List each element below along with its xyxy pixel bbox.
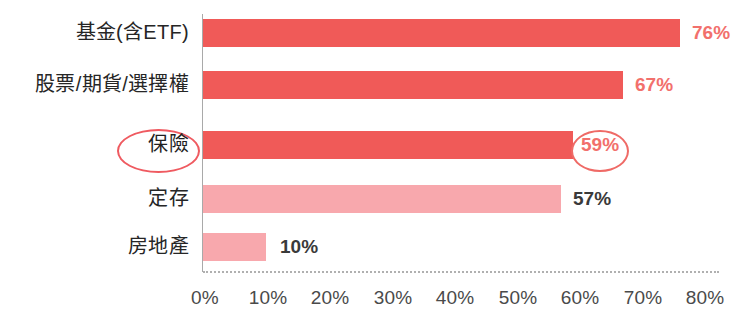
x-tick-70: 70%	[613, 286, 673, 310]
category-label-fund: 基金(含ETF)	[76, 19, 190, 45]
chart-row-real-estate: 房地產 10%	[0, 228, 741, 274]
category-label-real-estate: 房地產	[128, 233, 189, 259]
x-tick-40: 40%	[425, 286, 485, 310]
bar-real-estate	[203, 233, 266, 261]
horizontal-bar-chart: 基金(含ETF) 76% 股票/期貨/選擇權 67% 保險 59% 定存 57%…	[0, 0, 741, 329]
value-label-fund: 76%	[692, 20, 730, 46]
bar-time-deposit	[203, 185, 561, 213]
value-label-insurance: 59%	[581, 132, 619, 158]
chart-row-stocks: 股票/期貨/選擇權 67%	[0, 66, 741, 112]
chart-row-fund: 基金(含ETF) 76%	[0, 14, 741, 60]
chart-row-time-deposit: 定存 57%	[0, 180, 741, 226]
x-tick-10: 10%	[238, 286, 298, 310]
x-tick-30: 30%	[363, 286, 423, 310]
category-label-insurance: 保險	[148, 131, 189, 157]
bar-insurance	[203, 131, 573, 159]
x-tick-50: 50%	[488, 286, 548, 310]
x-tick-60: 60%	[550, 286, 610, 310]
x-tick-20: 20%	[300, 286, 360, 310]
category-label-stocks: 股票/期貨/選擇權	[35, 71, 189, 97]
x-tick-0: 0%	[175, 286, 235, 310]
value-label-stocks: 67%	[635, 72, 673, 98]
chart-row-insurance: 保險 59%	[0, 126, 741, 172]
x-axis-tick-labels: 0% 10% 20% 30% 40% 50% 60% 70% 80%	[0, 286, 741, 316]
value-label-time-deposit: 57%	[573, 186, 611, 212]
x-tick-80: 80%	[675, 286, 735, 310]
bar-stocks	[203, 71, 623, 99]
category-label-time-deposit: 定存	[148, 185, 189, 211]
value-label-real-estate: 10%	[280, 234, 318, 260]
bar-fund	[203, 19, 680, 47]
